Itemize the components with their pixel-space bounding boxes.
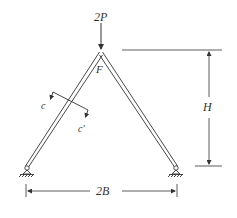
section-cut	[51, 92, 89, 117]
left-member	[26, 52, 103, 167]
right-member	[100, 52, 178, 167]
section-start-label: c	[41, 101, 45, 111]
span-label: 2B	[93, 185, 112, 197]
frame-drawing	[0, 0, 237, 218]
apex-joint-label: F	[96, 64, 103, 75]
left-pin-support	[19, 166, 34, 177]
frame-diagram: 2P F c c′ H 2B	[0, 0, 237, 218]
section-end-label: c′	[78, 124, 85, 134]
height-label: H	[203, 101, 212, 113]
load-label: 2P	[94, 11, 107, 23]
right-pin-support	[168, 166, 183, 177]
